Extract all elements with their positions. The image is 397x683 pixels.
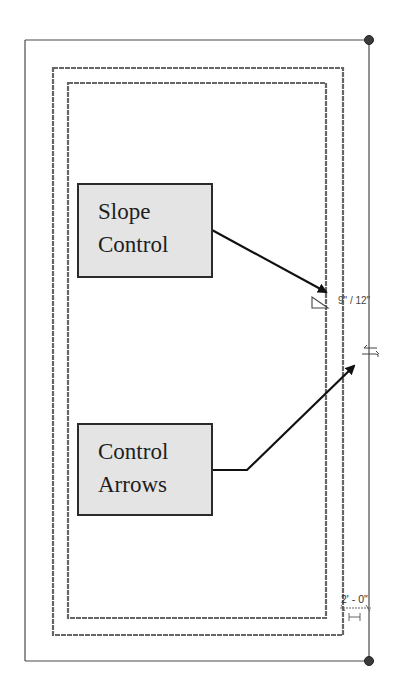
offset-dimension-label[interactable]: 2' - 0" (341, 593, 368, 605)
slope-control-callout: Slope Control (77, 183, 213, 278)
inner-wall-outline (68, 83, 326, 618)
outer-boundary[interactable] (25, 40, 369, 661)
slope-control-leader-arrow (212, 230, 326, 292)
roof-plan-diagram: 9" / 12" 2' - 0" Slope Control Control A… (0, 0, 397, 683)
grip-dot-icon[interactable] (365, 36, 374, 45)
middle-wall-outline (53, 68, 343, 635)
control-arrows-callout: Control Arrows (77, 423, 213, 516)
callout-line: Control (98, 435, 211, 468)
slope-value-label[interactable]: 9" / 12" (338, 295, 370, 307)
callout-line: Control (98, 228, 211, 261)
callout-line: Slope (98, 195, 211, 228)
offset-dimension[interactable] (340, 605, 371, 621)
callout-line: Arrows (98, 468, 211, 501)
control-arrows-leader-arrow (212, 366, 354, 470)
diagram-graphics (0, 0, 397, 683)
flip-arrows-icon[interactable] (362, 345, 379, 357)
grip-dot-icon[interactable] (365, 657, 374, 666)
